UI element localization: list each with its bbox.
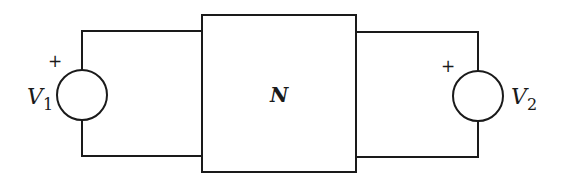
circuit-diagram: + V 1 N + V 2 — [0, 0, 562, 182]
left-voltage-source — [57, 70, 107, 120]
left-plus-sign: + — [48, 51, 62, 71]
right-top-wire — [356, 32, 478, 71]
network-label: N — [269, 83, 289, 107]
right-voltage-source — [453, 71, 503, 121]
right-source-subscript: 2 — [527, 95, 537, 114]
right-plus-sign: + — [441, 56, 455, 76]
right-bottom-wire — [356, 121, 478, 157]
left-source-subscript: 1 — [43, 95, 53, 114]
left-top-wire — [82, 31, 202, 70]
left-bottom-wire — [82, 120, 202, 156]
